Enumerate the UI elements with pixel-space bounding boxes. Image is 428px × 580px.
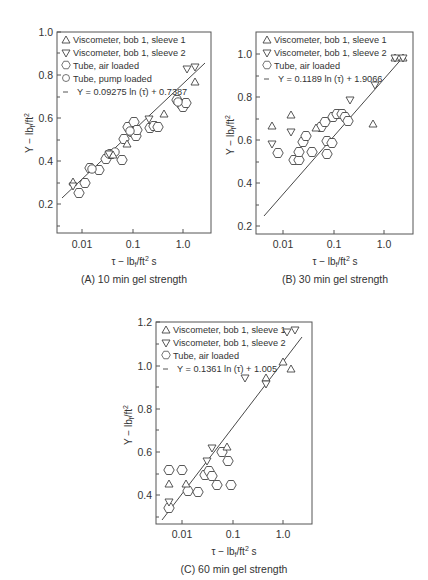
plot-a-points — [69, 64, 199, 198]
plot-a: 1.0 0.8 0.6 0.4 0.2 0.01 0.1 1.0 τ − lbf… — [23, 26, 211, 285]
svg-text:Y = 0.1189 ln (τ̇) + 1.9066: Y = 0.1189 ln (τ̇) + 1.9066 — [278, 74, 382, 84]
svg-text:Viscometer, bob 1, sleeve 2: Viscometer, bob 1, sleeve 2 — [73, 48, 186, 58]
svg-text:Viscometer, bob 1, sleeve 1: Viscometer, bob 1, sleeve 1 — [73, 35, 186, 45]
svg-text:Viscometer, bob 1, sleeve 1: Viscometer, bob 1, sleeve 1 — [173, 325, 286, 335]
plot-a-ytick-label: 0.2 — [38, 198, 53, 210]
svg-text:Viscometer, bob 1, sleeve 1: Viscometer, bob 1, sleeve 1 — [274, 35, 387, 45]
plot-b-ytick-label: 1.0 — [237, 48, 252, 60]
plot-b-ytick-label: 0.2 — [237, 220, 252, 232]
plot-a-caption: (A) 10 min gel strength — [81, 273, 187, 285]
plot-c-caption: (C) 60 min gel strength — [181, 563, 288, 575]
svg-text:Tube, air loaded: Tube, air loaded — [73, 61, 139, 71]
plot-b-x-ticks — [283, 230, 384, 234]
plot-c-y-ticks — [156, 322, 160, 517]
plot-c-ytick-label: 1.2 — [137, 316, 152, 328]
plot-a-xtick-label: 1.0 — [176, 238, 191, 250]
plot-a-xtick-label: 0.01 — [72, 238, 93, 250]
plot-c-legend: Viscometer, bob 1, sleeve 1 Viscometer, … — [162, 325, 286, 374]
plot-b-y-ticks — [256, 54, 260, 226]
plot-a-ytick-label: 0.6 — [38, 112, 53, 124]
plot-a-x-ticks — [82, 229, 183, 233]
plot-b-xtick-label: 0.1 — [327, 238, 342, 250]
plot-a-xlabel: τ − lbf/ft2 s — [111, 255, 156, 268]
plot-a-ytick-label: 0.4 — [38, 155, 53, 167]
svg-text:Tube, pump loaded: Tube, pump loaded — [73, 74, 152, 84]
plot-b-caption: (B) 30 min gel strength — [282, 273, 388, 285]
plot-b-xtick-label: 0.01 — [273, 238, 294, 250]
plot-a-ytick-label: 0.8 — [38, 69, 53, 81]
svg-text:Y = 0.09275 ln (τ̇) + 0.7387: Y = 0.09275 ln (τ̇) + 0.7387 — [77, 87, 187, 97]
plot-b-ytick-label: 0.6 — [237, 134, 252, 146]
svg-text:Viscometer, bob 1, sleeve 2: Viscometer, bob 1, sleeve 2 — [274, 48, 387, 58]
plot-b-xlabel: τ − lbf/ft2 s — [312, 255, 357, 268]
plot-c-ytick-label: 0.4 — [137, 489, 152, 501]
plot-c-ylabel: Y − lbf/ft2 — [122, 405, 135, 445]
plot-c: 1.2 1.0 0.8 0.6 0.4 0.01 0.1 1.0 τ − lbf… — [122, 316, 312, 575]
plot-a-legend: Viscometer, bob 1, sleeve 1 Viscometer, … — [62, 35, 188, 97]
svg-text:Tube, air loaded: Tube, air loaded — [173, 351, 239, 361]
plot-c-xlabel: τ − lbf/ft2 s — [211, 545, 256, 558]
plot-c-xtick-label: 0.1 — [226, 528, 241, 540]
svg-text:Viscometer, bob 1, sleeve 2: Viscometer, bob 1, sleeve 2 — [173, 338, 286, 348]
plot-c-ytick-label: 1.0 — [137, 360, 152, 372]
plot-c-x-ticks — [182, 520, 283, 524]
plot-c-ytick-label: 0.8 — [137, 403, 152, 415]
plot-b-xtick-label: 1.0 — [377, 238, 392, 250]
plot-b: 1.0 0.8 0.6 0.4 0.2 0.01 0.1 1.0 τ − lbf… — [224, 32, 413, 285]
plot-a-ytick-label: 1.0 — [38, 26, 53, 38]
plot-c-xtick-label: 1.0 — [276, 528, 291, 540]
plot-b-legend: Viscometer, bob 1, sleeve 1 Viscometer, … — [263, 35, 387, 84]
plot-c-ytick-label: 0.6 — [137, 446, 152, 458]
plot-a-y-ticks — [57, 32, 61, 226]
plot-a-xtick-label: 0.1 — [126, 238, 141, 250]
plot-b-ytick-label: 0.4 — [237, 177, 252, 189]
plot-b-ylabel: Y − lbf/ft2 — [224, 115, 237, 155]
plot-a-ylabel: Y − lbf/ft2 — [23, 113, 36, 153]
svg-text:Tube, air loaded: Tube, air loaded — [274, 61, 340, 71]
svg-text:Y = 0.1361 ln (τ̇) + 1.005: Y = 0.1361 ln (τ̇) + 1.005 — [177, 364, 277, 374]
figure: 1.0 0.8 0.6 0.4 0.2 0.01 0.1 1.0 τ − lbf… — [0, 0, 428, 580]
plot-c-xtick-label: 0.01 — [172, 528, 193, 540]
plot-b-ytick-label: 0.8 — [237, 91, 252, 103]
